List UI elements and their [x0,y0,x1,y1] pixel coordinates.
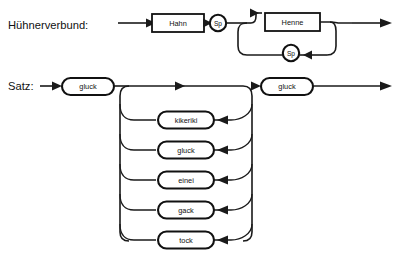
branch-in-tock [120,224,156,240]
branch-out-kikeriki [214,104,252,120]
arrow-alt-gluck-icon [217,145,228,154]
arrow-alt-einei-icon [217,175,228,184]
node-alt-gluck-label: gluck [177,146,195,155]
node-sp-loop-label: Sp [287,50,295,58]
node-hahn-label: Hahn [169,19,187,28]
branch-in-einei [120,164,156,180]
diagram-huehnerverbund: Hühnerverbund: Hahn Sp Henne [8,8,392,61]
arrow-alt-gack-icon [217,205,228,214]
link-henne-exit [320,22,352,23]
node-alt-tock-label: tock [179,236,193,245]
loop-left-rail-huehnerverbund [238,23,247,55]
node-alt-gack-label: gack [178,206,194,215]
node-alt-einei-label: einei [178,176,194,185]
branch-in-gack [120,194,156,210]
rule-title-satz: Satz: [8,80,34,92]
node-alt-kikeriki-label: kikeriki [175,116,198,125]
node-henne-label: Henne [282,18,304,27]
arrow-alt-kikeriki-icon [217,115,228,124]
branch-out-gack [214,194,252,210]
branch-out-gluck-alt [214,134,252,150]
branch-in-kikeriki [120,104,156,120]
arrow-end-huehnerverbund-icon [380,18,392,27]
arrow-into-gluck-last-icon [251,81,261,90]
node-gluck-last-label: gluck [278,82,296,91]
arrow-alt-tock-icon [217,235,228,244]
branch-out-einei [214,164,252,180]
rule-title-huehnerverbund: Hühnerverbund: [8,19,88,31]
branch-in-gluck-alt [120,134,156,150]
arrow-end-satz-icon [380,81,392,90]
diagram-satz: Satz: gluck kikeriki gluck [8,78,392,249]
arrow-into-sp-loop-icon [303,50,312,59]
node-gluck-first-label: gluck [79,82,97,91]
arrow-into-gluck-first-icon [52,81,62,90]
node-sp-top-label: Sp [214,20,222,28]
arrow-choice-bypass-icon [175,81,185,90]
railroad-diagram-page: Hühnerverbund: Hahn Sp Henne [0,0,400,269]
loop-right-rail-huehnerverbund [327,22,336,55]
branch-out-tock [214,224,252,240]
choice-left-rail [120,86,129,241]
railroad-diagram-canvas: Hühnerverbund: Hahn Sp Henne [0,0,400,269]
